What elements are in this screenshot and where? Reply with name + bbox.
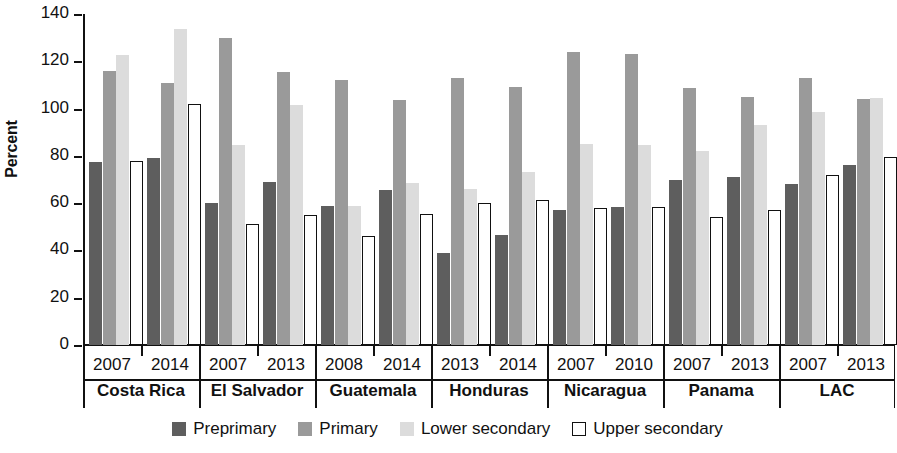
- y-axis-tick-label: 100: [41, 98, 69, 118]
- bar-preprimary[interactable]: [89, 162, 102, 345]
- year-bar-cluster: [315, 14, 373, 345]
- year-bar-cluster: [605, 14, 663, 345]
- y-axis-title: Percent: [3, 99, 21, 199]
- bar-preprimary[interactable]: [321, 206, 334, 345]
- bar-primary[interactable]: [277, 72, 290, 345]
- bar-primary[interactable]: [219, 38, 232, 345]
- y-axis-tick-label: 80: [50, 145, 69, 165]
- bar-lower-secondary[interactable]: [174, 29, 187, 345]
- bar-preprimary[interactable]: [379, 190, 392, 345]
- bar-preprimary[interactable]: [553, 210, 566, 345]
- x-axis-year-tick: [141, 346, 143, 356]
- bar-primary[interactable]: [451, 78, 464, 345]
- legend-label: Upper secondary: [593, 419, 722, 439]
- x-axis-year-label: 2008: [315, 355, 373, 375]
- bar-primary[interactable]: [393, 100, 406, 345]
- bar-lower-secondary[interactable]: [638, 145, 651, 345]
- bar-preprimary[interactable]: [205, 203, 218, 345]
- bar-primary[interactable]: [103, 71, 116, 345]
- bar-lower-secondary[interactable]: [812, 112, 825, 345]
- bar-primary[interactable]: [799, 78, 812, 345]
- bar-upper-secondary[interactable]: [884, 157, 897, 345]
- bar-lower-secondary[interactable]: [580, 144, 593, 345]
- y-axis-tick-mark: [74, 109, 82, 111]
- y-axis-tick-mark: [74, 156, 82, 158]
- bar-preprimary[interactable]: [785, 184, 798, 345]
- bar-lower-secondary[interactable]: [522, 172, 535, 345]
- year-bar-cluster: [431, 14, 489, 345]
- bar-lower-secondary[interactable]: [464, 189, 477, 345]
- x-axis-group-label: Guatemala: [315, 381, 431, 401]
- legend-item[interactable]: Upper secondary: [572, 419, 722, 439]
- x-axis-year-label: 2013: [431, 355, 489, 375]
- bar-group: [199, 14, 315, 345]
- year-bar-cluster: [663, 14, 721, 345]
- bar-lower-secondary[interactable]: [696, 151, 709, 345]
- bar-primary[interactable]: [857, 99, 870, 345]
- legend-label: Preprimary: [193, 419, 276, 439]
- year-bar-cluster: [199, 14, 257, 345]
- bar-group: [663, 14, 779, 345]
- bar-preprimary[interactable]: [263, 182, 276, 345]
- bar-preprimary[interactable]: [843, 165, 856, 345]
- x-axis-group-label: Nicaragua: [547, 381, 663, 401]
- bar-lower-secondary[interactable]: [406, 183, 419, 345]
- y-axis-tick-mark: [74, 250, 82, 252]
- bar-primary[interactable]: [683, 88, 696, 345]
- legend-swatch-icon: [298, 422, 312, 436]
- x-axis-group-label: El Salvador: [199, 381, 315, 401]
- x-axis-year-label: 2014: [373, 355, 431, 375]
- bar-preprimary[interactable]: [437, 253, 450, 345]
- x-axis-year-label: 2013: [837, 355, 895, 375]
- bar-primary[interactable]: [625, 54, 638, 345]
- bar-primary[interactable]: [335, 80, 348, 345]
- bar-primary[interactable]: [509, 87, 522, 345]
- year-bar-cluster: [489, 14, 547, 345]
- bar-preprimary[interactable]: [727, 177, 740, 345]
- bar-preprimary[interactable]: [495, 235, 508, 345]
- x-axis-year-label: 2010: [605, 355, 663, 375]
- x-axis-year-label: 2007: [779, 355, 837, 375]
- bar-preprimary[interactable]: [669, 180, 682, 346]
- plot-area: [83, 14, 895, 345]
- x-axis-year-tick: [721, 346, 723, 356]
- legend-swatch-icon: [172, 422, 186, 436]
- bar-lower-secondary[interactable]: [348, 206, 361, 345]
- x-axis-year-label: 2013: [721, 355, 779, 375]
- bar-primary[interactable]: [161, 83, 174, 345]
- bar-lower-secondary[interactable]: [290, 105, 303, 345]
- x-axis-group-label: Costa Rica: [83, 381, 199, 401]
- bar-lower-secondary[interactable]: [116, 55, 129, 345]
- bar-preprimary[interactable]: [611, 207, 624, 345]
- year-bar-cluster: [257, 14, 315, 345]
- legend-swatch-icon: [572, 422, 586, 436]
- x-axis-area: 20072014Costa Rica20072013El Salvador200…: [83, 346, 895, 408]
- bar-lower-secondary[interactable]: [754, 125, 767, 345]
- year-bar-cluster: [141, 14, 199, 345]
- legend-item[interactable]: Primary: [298, 419, 378, 439]
- y-axis-tick-mark: [74, 203, 82, 205]
- x-axis-year-label: 2007: [199, 355, 257, 375]
- bar-preprimary[interactable]: [147, 158, 160, 345]
- year-bar-cluster: [83, 14, 141, 345]
- bar-primary[interactable]: [567, 52, 580, 345]
- year-bar-cluster: [721, 14, 779, 345]
- legend-item[interactable]: Preprimary: [172, 419, 276, 439]
- bar-group: [83, 14, 199, 345]
- y-axis-tick-mark: [74, 345, 82, 347]
- x-axis-year-label: 2007: [547, 355, 605, 375]
- x-axis-year-tick: [257, 346, 259, 356]
- bar-group: [779, 14, 895, 345]
- bar-lower-secondary[interactable]: [870, 98, 883, 345]
- legend-item[interactable]: Lower secondary: [400, 419, 550, 439]
- x-axis-group-label: LAC: [779, 381, 895, 401]
- bar-primary[interactable]: [741, 97, 754, 345]
- legend-label: Primary: [319, 419, 378, 439]
- x-axis-year-tick: [373, 346, 375, 356]
- x-axis-year-label: 2013: [257, 355, 315, 375]
- y-axis-tick-label: 120: [41, 50, 69, 70]
- y-axis-tick-label: 140: [41, 3, 69, 23]
- y-axis-tick-mark: [74, 298, 82, 300]
- bar-lower-secondary[interactable]: [232, 145, 245, 345]
